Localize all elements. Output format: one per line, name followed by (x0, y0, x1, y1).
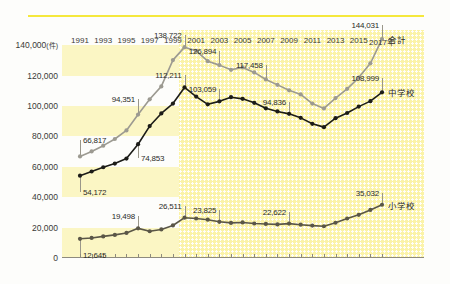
value-annotation: 66,817 (83, 136, 106, 145)
x-axis-tick-label: 1993 (94, 36, 112, 45)
data-point (252, 70, 256, 74)
x-axis-tick-label: 1995 (118, 36, 136, 45)
data-point (182, 85, 186, 89)
x-axis-tick (196, 254, 197, 258)
data-point (90, 169, 94, 173)
data-point (333, 116, 337, 120)
data-point (357, 213, 361, 217)
data-point (322, 125, 326, 129)
data-point (217, 99, 221, 103)
x-axis-tick (115, 254, 116, 258)
x-axis-tick-label: 2005 (234, 36, 252, 45)
data-point (287, 112, 291, 116)
data-point (159, 84, 163, 88)
plot-area: 1991199319951997199920012003200520072009… (62, 30, 424, 258)
data-point (148, 124, 152, 128)
data-point (229, 221, 233, 225)
data-point (171, 58, 175, 62)
data-point (333, 221, 337, 225)
value-annotation: 35,032 (356, 188, 379, 197)
y-axis-tick-label: 40,000 (4, 192, 58, 202)
y-axis-tick-label: 80,000 (4, 131, 58, 141)
value-annotation: 108,999 (351, 74, 379, 83)
top-divider-rule (28, 15, 424, 17)
data-point (182, 216, 186, 220)
x-axis-tick-label: 2011 (304, 36, 321, 45)
y-axis-unit: (件) (46, 42, 58, 49)
data-point (345, 216, 349, 220)
x-axis-tick-label: 2013 (327, 36, 345, 45)
data-point (287, 222, 291, 226)
value-annotation: 103,059 (189, 85, 217, 94)
chart-figure: 2000年代➡ 19911993199519971999200120032005… (0, 0, 450, 284)
data-point (380, 90, 384, 94)
y-axis-tick-label: 120,000 (4, 71, 58, 81)
data-point (217, 220, 221, 224)
data-point (264, 77, 268, 81)
value-annotation: 144,031 (351, 21, 379, 30)
data-point (136, 142, 140, 146)
x-axis-tick (173, 254, 174, 258)
data-point (113, 137, 117, 141)
y-axis-tick-label: 100,000 (4, 101, 58, 111)
value-annotation: 94,836 (263, 97, 286, 106)
value-annotation: 74,853 (141, 154, 164, 163)
data-point (90, 149, 94, 153)
x-axis-tick-label: 2001 (187, 36, 205, 45)
data-point (275, 109, 279, 113)
value-annotation: 126,894 (189, 47, 217, 56)
data-point (368, 208, 372, 212)
x-axis-tick (185, 254, 186, 258)
x-axis-tick (324, 254, 325, 258)
data-point (345, 87, 349, 91)
data-point (124, 231, 128, 235)
data-point (113, 233, 117, 237)
data-point (380, 203, 384, 207)
value-annotation: 54,172 (83, 187, 106, 196)
data-point (90, 236, 94, 240)
data-point (171, 101, 175, 105)
series-label-中学校: 中学校 (388, 86, 415, 98)
value-annotation: 19,498 (112, 212, 135, 221)
series-label-小学校: 小学校 (388, 199, 415, 211)
data-point (171, 223, 175, 227)
x-axis-tick-label: 2007 (257, 36, 275, 45)
data-point (299, 223, 303, 227)
data-point (159, 111, 163, 115)
data-point (229, 68, 233, 72)
data-point (333, 96, 337, 100)
x-axis-tick (254, 254, 255, 258)
y-axis-tick-label: 20,000 (4, 223, 58, 233)
x-axis-tick (161, 254, 162, 258)
x-axis-tick-label: 1991 (71, 36, 89, 45)
data-point (368, 61, 372, 65)
data-point (357, 105, 361, 109)
data-point (148, 229, 152, 233)
value-annotation: 117,458 (236, 61, 263, 70)
data-point (124, 156, 128, 160)
data-point (148, 97, 152, 101)
x-axis-tick (359, 254, 360, 258)
value-annotation: 94,351 (112, 94, 135, 103)
data-point (206, 218, 210, 222)
data-point (241, 97, 245, 101)
data-point (101, 234, 105, 238)
value-annotation: 22,622 (263, 207, 286, 216)
value-annotation: 23,825 (193, 205, 216, 214)
value-annotation: 112,211 (155, 71, 181, 80)
x-axis-tick (382, 254, 383, 258)
data-point (299, 116, 303, 120)
x-axis-tick (289, 254, 290, 258)
data-point (345, 111, 349, 115)
data-point (78, 174, 82, 178)
y-axis-tick-label: 140,000(件) (4, 40, 58, 50)
data-point (264, 106, 268, 110)
data-point (275, 83, 279, 87)
x-axis-tick (336, 254, 337, 258)
x-axis-tick (277, 254, 278, 258)
x-axis-tick (126, 254, 127, 258)
series-label-合計: 合計 (388, 33, 406, 45)
data-point (206, 102, 210, 106)
data-point (194, 216, 198, 220)
data-point (368, 99, 372, 103)
